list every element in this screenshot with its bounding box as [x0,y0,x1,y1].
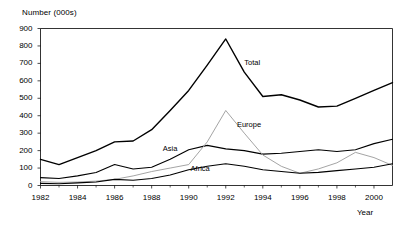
series-line-total [41,39,393,165]
series-label-europe: Europe [237,120,261,129]
series-label-total: Total [244,58,260,67]
series-line-asia [41,139,393,178]
series-label-africa: Africa [191,164,210,173]
series-label-asia: Asia [163,144,178,153]
chart-figure: Number (000s) Year 010020030040050060070… [0,0,411,229]
series-line-africa [41,164,393,184]
series-line-europe [41,110,393,182]
plot-area [0,0,411,229]
